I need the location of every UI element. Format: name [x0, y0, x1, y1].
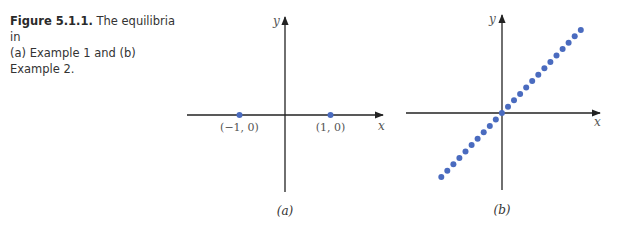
equilibrium-point: [328, 112, 334, 118]
panel-a: y x (−1, 0)(1, 0) (a): [187, 14, 385, 218]
equilibrium-line-point: [469, 142, 475, 148]
panel-a-y-label: y: [272, 14, 280, 28]
equilibrium-point: [237, 112, 243, 118]
panel-b-y-label: y: [488, 12, 496, 26]
equilibrium-line-point: [541, 65, 547, 71]
figure-canvas: y x (−1, 0)(1, 0) (a) y x (b): [0, 0, 636, 236]
equilibrium-line-point: [438, 174, 444, 180]
panel-a-label: (a): [277, 204, 294, 218]
equilibrium-line-point: [523, 85, 529, 91]
panel-a-x-label: x: [378, 119, 385, 133]
equilibrium-line-point: [554, 53, 560, 59]
equilibrium-line-point: [517, 91, 523, 97]
equilibrium-line-point: [493, 117, 499, 123]
equilibrium-line-point: [572, 33, 578, 39]
equilibrium-line-point: [499, 110, 505, 116]
equilibrium-line-point: [566, 40, 572, 46]
equilibrium-line-point: [560, 46, 566, 52]
equilibrium-line-point: [456, 155, 462, 161]
equilibrium-line-point: [535, 72, 541, 78]
panel-b: y x (b): [406, 12, 601, 217]
point-label: (1, 0): [316, 121, 346, 134]
panel-b-label: (b): [493, 203, 510, 217]
panel-b-points: [438, 27, 584, 180]
equilibrium-line-point: [529, 78, 535, 84]
equilibrium-line-point: [450, 161, 456, 167]
equilibrium-line-point: [487, 123, 493, 129]
equilibrium-line-point: [578, 27, 584, 33]
equilibrium-line-point: [444, 168, 450, 174]
equilibrium-line-point: [463, 149, 469, 155]
equilibrium-line-point: [547, 59, 553, 65]
equilibrium-line-point: [505, 104, 511, 110]
equilibrium-line-point: [511, 97, 517, 103]
point-label: (−1, 0): [220, 121, 259, 134]
equilibrium-line-point: [475, 136, 481, 142]
panel-b-x-label: x: [594, 115, 601, 129]
equilibrium-line-point: [481, 129, 487, 135]
